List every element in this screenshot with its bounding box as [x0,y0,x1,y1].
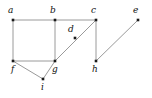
vertex-label-g: g [52,65,58,74]
edge-layer [13,20,138,79]
graph-figure: abcdefghi [0,0,152,98]
graph-vertex-a [12,19,15,22]
graph-edge-f-i [13,61,43,79]
graph-vertex-b [54,19,57,22]
graph-edge-g-c [55,20,96,61]
vertex-label-d: d [68,25,74,34]
graph-vertex-g [54,60,57,63]
graph-vertex-i [42,78,45,81]
vertex-label-f: f [11,65,14,74]
vertex-label-h: h [92,65,98,74]
graph-vertex-f [12,60,15,63]
vertex-label-a: a [8,6,13,15]
vertex-label-e: e [133,6,138,15]
vertex-label-c: c [91,6,96,15]
graph-vertex-h [95,60,98,63]
graph-vertex-c [95,19,98,22]
graph-canvas [0,0,152,98]
vertex-layer [12,19,140,81]
graph-vertex-e [137,19,140,22]
graph-edge-h-e [96,20,138,61]
graph-vertex-d [74,37,77,40]
vertex-label-b: b [50,6,56,15]
vertex-label-i: i [41,83,44,92]
